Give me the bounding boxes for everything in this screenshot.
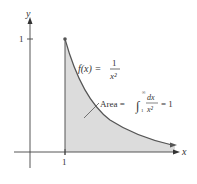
x-tick-label: 1 bbox=[62, 157, 67, 167]
x-axis-label: x bbox=[181, 146, 187, 157]
integral-denominator: x² bbox=[146, 105, 154, 114]
function-denominator: x² bbox=[109, 71, 117, 81]
integral-numerator: dx bbox=[147, 93, 155, 102]
integral-upper: ∞ bbox=[142, 90, 146, 95]
shaded-area bbox=[65, 39, 175, 152]
y-axis-label: y bbox=[25, 8, 31, 19]
integral-lower: 1 bbox=[141, 108, 144, 113]
annotation-result: = 1 bbox=[161, 99, 173, 109]
chart: y x 1 1 f(x) = 1 x² Area = ∫ ∞ 1 dx x² =… bbox=[0, 0, 197, 184]
annotation-prefix: Area = bbox=[100, 99, 125, 109]
function-numerator: 1 bbox=[112, 58, 117, 68]
x-axis-arrow-icon bbox=[173, 150, 180, 155]
function-lhs: f(x) = bbox=[78, 63, 101, 75]
y-tick-label: 1 bbox=[19, 34, 24, 44]
